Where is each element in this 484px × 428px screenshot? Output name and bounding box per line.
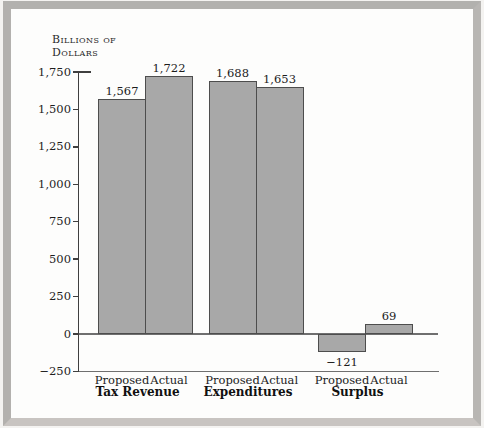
y-axis-tick-label: 1,500 (27, 102, 71, 117)
bar-tax-revenue-proposed (98, 99, 146, 334)
y-axis-tick-label: −250 (27, 364, 71, 379)
bar-surplus-actual (365, 324, 413, 334)
y-axis-unit-label-line1: Billions of (52, 33, 142, 46)
value-label-expenditures-actual: 1,653 (248, 72, 312, 86)
y-axis-tick-label: 0 (27, 327, 71, 342)
y-axis-unit-label-line2: Dollars (52, 46, 142, 59)
y-axis-tick-label: 750 (27, 214, 71, 229)
value-label-tax-revenue-actual: 1,722 (137, 61, 201, 75)
y-axis-tick-label: 1,000 (27, 177, 71, 192)
value-label-surplus-proposed: −121 (310, 355, 374, 369)
bar-expenditures-proposed (209, 81, 257, 334)
y-axis-tick-label: 500 (27, 252, 71, 267)
y-axis-tick (73, 109, 80, 110)
value-label-surplus-actual: 69 (357, 309, 421, 323)
group-label-surplus: Surplus (293, 385, 423, 399)
y-axis-tick-label: 1,750 (27, 65, 71, 80)
y-axis-unit-label: Billions of Dollars (52, 33, 142, 59)
bar-surplus-proposed (318, 334, 366, 352)
y-axis-tick (73, 258, 80, 259)
y-axis-tick (73, 71, 80, 72)
bar-expenditures-actual (256, 87, 304, 334)
figure-canvas: Billions of Dollars 1,7501,5001,2501,000… (0, 0, 484, 428)
y-axis-tick (73, 146, 80, 147)
y-axis-tick-label: 250 (27, 289, 71, 304)
y-axis-tick (73, 184, 80, 185)
y-axis-tick (73, 296, 80, 297)
bar-tax-revenue-actual (145, 76, 193, 334)
y-axis-tick (73, 221, 80, 222)
y-axis-tick-label: 1,250 (27, 139, 71, 154)
